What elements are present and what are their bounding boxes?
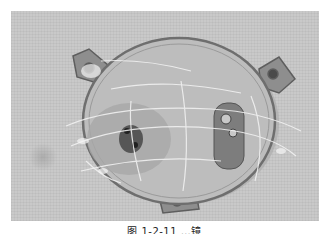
figure-photo (11, 11, 319, 221)
figure-caption: 图 1-2-11 …镜 (0, 226, 329, 234)
device-illustration (11, 11, 319, 221)
